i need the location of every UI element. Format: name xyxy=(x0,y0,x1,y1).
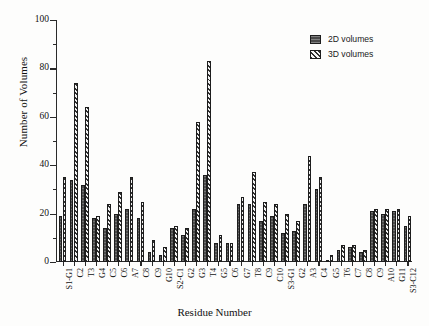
x-tick-label: C7 xyxy=(355,258,363,268)
bar-2d-volumes xyxy=(303,204,307,262)
bar-2d-volumes xyxy=(92,218,96,262)
x-tick-label: S3-G1 xyxy=(288,247,296,268)
bar-3d-volumes xyxy=(296,221,300,262)
x-tick xyxy=(63,262,64,266)
y-tick-label: 80 xyxy=(40,64,50,74)
x-tick-label: C5 xyxy=(110,258,118,268)
y-tick-minor xyxy=(53,93,57,94)
x-tick xyxy=(307,262,308,266)
x-tick-label: T6 xyxy=(344,259,352,268)
y-axis-title: Number of Volumes xyxy=(17,27,29,177)
bar-3d-volumes xyxy=(74,83,78,262)
x-tick-label: G7 xyxy=(244,258,252,268)
bar-3d-volumes xyxy=(107,204,111,262)
bar-3d-volumes xyxy=(252,172,256,262)
x-tick xyxy=(374,262,375,266)
bar-2d-volumes xyxy=(114,214,118,262)
legend-entry: 2D volumes xyxy=(310,34,373,44)
bar-2d-volumes xyxy=(103,228,107,262)
bar-2d-volumes xyxy=(259,221,263,262)
bar-3d-volumes xyxy=(196,122,200,262)
x-tick xyxy=(129,262,130,266)
x-tick-label: S2-C1 xyxy=(177,247,185,268)
y-tick-major xyxy=(50,262,56,263)
x-tick-label: A7 xyxy=(132,258,140,268)
bar-2d-volumes xyxy=(381,214,385,262)
bar-3d-volumes xyxy=(85,107,89,262)
x-tick xyxy=(407,262,408,266)
bar-2d-volumes xyxy=(125,209,129,262)
y-axis-line xyxy=(56,20,57,262)
x-tick xyxy=(241,262,242,266)
x-tick-label: C9 xyxy=(377,258,385,268)
x-tick-label: G2 xyxy=(299,258,307,268)
y-tick-major xyxy=(50,20,56,21)
x-tick-label: C8 xyxy=(366,258,374,268)
bar-3d-volumes xyxy=(141,202,145,263)
x-tick-label: C4 xyxy=(321,258,329,268)
x-tick-label: C6 xyxy=(121,258,129,268)
x-tick-label: G3 xyxy=(199,258,207,268)
y-tick-minor xyxy=(53,238,57,239)
chart-legend: 2D volumes3D volumes xyxy=(310,34,373,64)
y-tick-minor xyxy=(53,189,57,190)
x-tick xyxy=(218,262,219,266)
x-tick-label: C6 xyxy=(232,258,240,268)
bar-2d-volumes xyxy=(370,211,374,262)
y-tick-major xyxy=(50,214,56,215)
x-tick-label: C9 xyxy=(155,258,163,268)
x-tick-label: G11 xyxy=(399,254,407,268)
x-tick xyxy=(196,262,197,266)
x-tick xyxy=(207,262,208,266)
bar-2d-volumes xyxy=(237,204,241,262)
bar-3d-volumes xyxy=(308,156,312,262)
x-tick-label: T3 xyxy=(88,259,96,268)
bar-3d-volumes xyxy=(207,61,211,262)
x-tick-label: G5 xyxy=(333,258,341,268)
bar-3d-volumes xyxy=(118,192,122,262)
bar-2d-volumes xyxy=(137,218,141,262)
bar-2d-volumes xyxy=(270,216,274,262)
x-tick-label: C8 xyxy=(143,258,151,268)
bar-3d-volumes xyxy=(274,204,278,262)
x-tick xyxy=(229,262,230,266)
bar-3d-volumes xyxy=(319,177,323,262)
y-tick-label: 20 xyxy=(40,209,50,219)
bar-2d-volumes xyxy=(192,209,196,262)
x-tick-label: T8 xyxy=(255,259,263,268)
x-tick xyxy=(152,262,153,266)
y-tick-label: 100 xyxy=(35,15,49,25)
x-tick-label: C10 xyxy=(277,254,285,268)
x-tick-label: T4 xyxy=(210,259,218,268)
y-tick-label: 0 xyxy=(44,257,49,267)
bar-3d-volumes xyxy=(185,228,189,262)
legend-entry: 3D volumes xyxy=(310,49,373,59)
x-tick xyxy=(296,262,297,266)
x-tick xyxy=(385,262,386,266)
x-tick xyxy=(330,262,331,266)
x-tick xyxy=(118,262,119,266)
y-tick-major xyxy=(50,165,56,166)
x-tick-label: S3-C12 xyxy=(410,243,418,268)
legend-label: 2D volumes xyxy=(328,34,373,44)
x-tick xyxy=(285,262,286,266)
y-tick-label: 60 xyxy=(40,112,50,122)
x-tick-label: C2 xyxy=(77,258,85,268)
y-tick-label: 40 xyxy=(40,160,50,170)
hatch-fill-swatch xyxy=(310,50,321,59)
y-tick-major xyxy=(50,68,56,69)
bar-2d-volumes xyxy=(81,185,85,262)
x-tick-label: A3 xyxy=(310,258,318,268)
y-tick-minor xyxy=(53,141,57,142)
x-axis-title: Residue Number xyxy=(0,306,429,318)
bar-3d-volumes xyxy=(263,202,267,263)
x-tick xyxy=(107,262,108,266)
x-tick-label: G10 xyxy=(166,254,174,268)
bar-3d-volumes xyxy=(241,197,245,262)
bar-2d-volumes xyxy=(315,189,319,262)
x-tick-label: S1-G1 xyxy=(66,247,74,268)
bar-3d-volumes xyxy=(96,216,100,262)
solid-fill-swatch xyxy=(310,35,321,44)
y-tick-major xyxy=(50,117,56,118)
x-tick xyxy=(318,262,319,266)
